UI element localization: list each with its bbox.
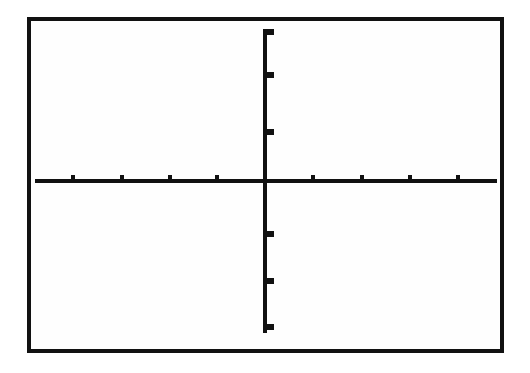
figure-root (0, 0, 530, 373)
y-axis-tick (266, 72, 274, 78)
y-axis-tick (266, 278, 274, 284)
y-axis-tick (266, 324, 274, 330)
x-axis-tick (215, 175, 219, 181)
x-axis-tick (360, 175, 364, 181)
x-axis-tick (456, 175, 460, 181)
y-axis-tick (266, 129, 274, 135)
x-axis-tick (311, 175, 315, 181)
y-axis-tick (266, 29, 274, 35)
x-axis-tick (408, 175, 412, 181)
x-axis-tick (71, 175, 75, 181)
coordinate-grid-svg (0, 0, 530, 373)
y-axis-tick (266, 231, 274, 237)
x-axis-tick (120, 175, 124, 181)
x-axis-tick (168, 175, 172, 181)
